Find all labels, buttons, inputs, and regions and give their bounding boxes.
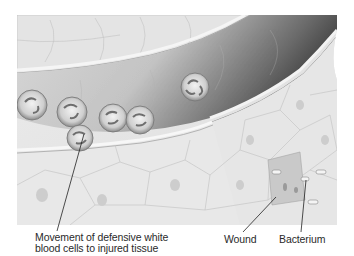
label-wound: Wound: [224, 234, 257, 245]
label-movement: Movement of defensive white blood cells …: [35, 232, 205, 254]
label-movement-line-2: blood cells to injured tissue: [35, 243, 205, 254]
illustration: Movement of defensive white blood cells …: [0, 0, 354, 256]
illustration-artwork: [0, 0, 354, 256]
label-bacterium: Bacterium: [279, 234, 325, 245]
